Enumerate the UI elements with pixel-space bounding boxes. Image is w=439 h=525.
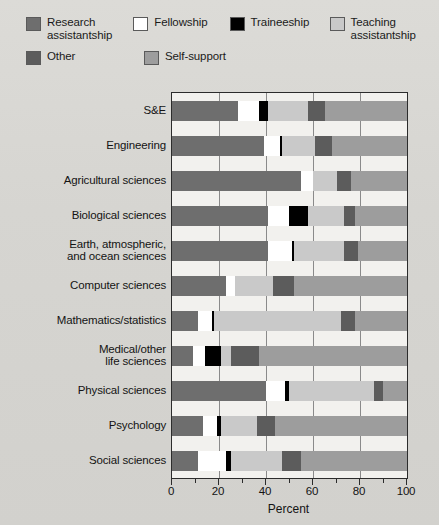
legend-label-fellowship: Fellowship (154, 16, 207, 29)
bar-segment-teaching-assistantship (289, 381, 374, 401)
x-tick-minor (383, 479, 384, 483)
plot-area (171, 92, 408, 479)
category-label: Mathematics/statistics (8, 314, 166, 326)
chart-legend: Research assistantship Fellowship Traine… (26, 16, 426, 74)
legend-label-traineeship: Traineeship (251, 16, 310, 29)
chart-figure: Research assistantship Fellowship Traine… (0, 0, 439, 525)
legend-item-fellowship: Fellowship (133, 16, 219, 31)
bar-segment-other (344, 206, 356, 226)
bar-agricultural-sciences (172, 171, 407, 191)
bar-segment-self-support (358, 241, 407, 261)
bar-segment-self-support (351, 171, 407, 191)
bar-segment-teaching-assistantship (313, 171, 337, 191)
category-label: Engineering (8, 139, 166, 151)
bar-segment-fellowship (301, 171, 313, 191)
category-label-line: Engineering (8, 139, 166, 151)
bar-segment-self-support (259, 346, 407, 366)
bar-segment-self-support (383, 381, 407, 401)
category-label-line: Mathematics/statistics (8, 314, 166, 326)
bar-segment-other (282, 451, 301, 471)
bar-biological-sciences (172, 206, 407, 226)
bar-computer-sciences (172, 276, 407, 296)
bar-segment-teaching-assistantship (231, 451, 283, 471)
bar-segment-teaching-assistantship (221, 416, 256, 436)
bar-segment-research-assistantship (172, 381, 266, 401)
bar-segment-fellowship (264, 136, 280, 156)
bar-segment-fellowship (238, 101, 259, 121)
bar-physical-sciences (172, 381, 407, 401)
bar-psychology (172, 416, 407, 436)
bar-social-sciences (172, 451, 407, 471)
bar-segment-teaching-assistantship (214, 311, 341, 331)
bar-segment-research-assistantship (172, 206, 268, 226)
bar-segment-other (344, 241, 358, 261)
category-label: S&E (8, 104, 166, 116)
legend-label-research-assistantship: Research assistantship (47, 16, 123, 41)
category-label-line: and ocean sciences (8, 250, 166, 262)
category-label-line: Agricultural sciences (8, 174, 166, 186)
category-label-line: Medical/other (8, 343, 166, 355)
category-label: Biological sciences (8, 209, 166, 221)
category-label-line: Social sciences (8, 454, 166, 466)
category-label: Agricultural sciences (8, 174, 166, 186)
bar-segment-fellowship (198, 451, 226, 471)
bar-segment-traineeship (205, 346, 221, 366)
legend-label-self-support: Self-support (165, 50, 226, 63)
legend-swatch-other-icon (26, 51, 41, 65)
bar-medical-other-life-sciences (172, 346, 407, 366)
bar-segment-self-support (355, 206, 407, 226)
category-label: Physical sciences (8, 384, 166, 396)
bar-segment-teaching-assistantship (221, 346, 230, 366)
bar-segment-self-support (294, 276, 407, 296)
category-label-line: life sciences (8, 355, 166, 367)
bar-engineering (172, 136, 407, 156)
bar-segment-teaching-assistantship (268, 101, 308, 121)
x-tick-label: 40 (259, 485, 271, 497)
bar-segment-teaching-assistantship (308, 206, 343, 226)
bar-segment-traineeship (259, 101, 268, 121)
bar-segment-research-assistantship (172, 101, 238, 121)
category-label-line: Psychology (8, 419, 166, 431)
category-label: Psychology (8, 419, 166, 431)
legend-label-other: Other (47, 50, 75, 63)
x-tick-minor (195, 479, 196, 483)
category-label: Earth, atmospheric,and ocean sciences (8, 238, 166, 262)
x-tick-label: 0 (168, 485, 174, 497)
bar-segment-fellowship (193, 346, 205, 366)
bar-segment-other (315, 136, 331, 156)
legend-item-other: Other (26, 50, 134, 65)
category-label: Medical/otherlife sciences (8, 343, 166, 367)
x-tick-minor (289, 479, 290, 483)
bar-segment-research-assistantship (172, 171, 301, 191)
legend-swatch-fellowship-icon (133, 17, 148, 31)
legend-item-teaching-assistantship: Teaching assistantship (330, 16, 416, 41)
legend-row-2: Other Self-support (26, 50, 426, 65)
category-label-line: Biological sciences (8, 209, 166, 221)
category-label: Social sciences (8, 454, 166, 466)
bar-segment-self-support (355, 311, 407, 331)
x-tick-minor (336, 479, 337, 483)
bar-segment-research-assistantship (172, 276, 226, 296)
bar-segment-fellowship (203, 416, 217, 436)
legend-item-self-support: Self-support (144, 50, 294, 65)
legend-item-traineeship: Traineeship (230, 16, 320, 31)
x-tick-label: 80 (353, 485, 365, 497)
bar-segment-teaching-assistantship (235, 276, 273, 296)
bar-mathematics-statistics (172, 311, 407, 331)
bar-segment-fellowship (198, 311, 212, 331)
bar-segment-research-assistantship (172, 416, 203, 436)
legend-swatch-teaching-assistantship-icon (330, 17, 345, 31)
category-label-line: Computer sciences (8, 279, 166, 291)
x-axis-tick-labels: 020406080100 (171, 485, 406, 501)
category-label-line: Earth, atmospheric, (8, 238, 166, 250)
legend-label-teaching-assistantship: Teaching assistantship (351, 16, 416, 41)
bar-segment-research-assistantship (172, 241, 268, 261)
category-label: Computer sciences (8, 279, 166, 291)
legend-item-research-assistantship: Research assistantship (26, 16, 123, 41)
bar-segment-fellowship (226, 276, 235, 296)
bar-segment-self-support (325, 101, 407, 121)
bar-s-e (172, 101, 407, 121)
legend-row-1: Research assistantship Fellowship Traine… (26, 16, 426, 41)
bar-segment-teaching-assistantship (294, 241, 343, 261)
bar-segment-other (341, 311, 355, 331)
